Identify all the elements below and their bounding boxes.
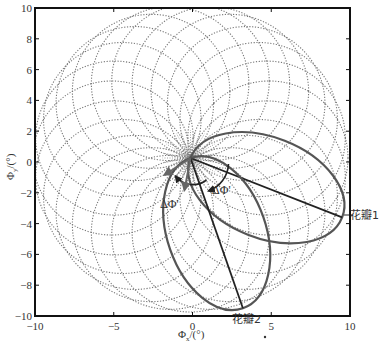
x-tick-label: 10 xyxy=(345,320,357,332)
petal-2-label: 花瓣2 xyxy=(232,312,261,326)
y-tick-label: −2 xyxy=(20,187,32,199)
highlighted-petals xyxy=(144,111,361,325)
y-tick-label: 8 xyxy=(27,33,33,45)
y-tick-label: −8 xyxy=(20,279,32,291)
y-tick-label: −10 xyxy=(15,310,33,322)
x-tick-label: −5 xyxy=(108,320,120,332)
x-axis-label: Φx/(°) xyxy=(178,328,205,343)
y-tick-label: 4 xyxy=(27,94,33,106)
y-tick-label: 6 xyxy=(27,64,33,76)
y-tick-label: 2 xyxy=(27,125,33,137)
y-axis-label: Φy/(°) xyxy=(4,153,19,180)
delta-phi-label-1: ΔΦ' xyxy=(160,197,179,211)
y-tick-label: −6 xyxy=(20,248,32,260)
stray-dot xyxy=(264,336,266,338)
y-tick-label: −4 xyxy=(20,218,32,230)
y-tick-label: 10 xyxy=(21,2,33,14)
rosette-chart: −10−50510−10−8−6−4−20246810 Φx/(°) Φy/(°… xyxy=(0,0,384,348)
delta-phi-label-2: ΔΦ' xyxy=(212,183,231,197)
y-tick-label: 0 xyxy=(27,156,33,168)
petal-1-label: 花瓣1 xyxy=(350,208,379,222)
x-tick-label: 5 xyxy=(269,320,275,332)
petal-chord-2 xyxy=(191,158,243,308)
